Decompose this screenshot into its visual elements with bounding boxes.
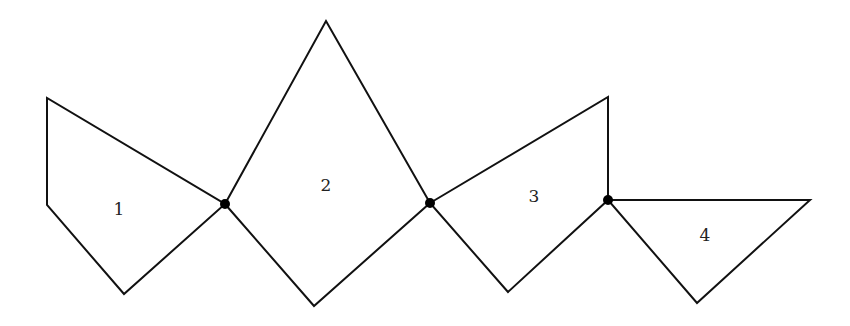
joint-dot-3 (603, 195, 613, 205)
polygon-chain-diagram: 1 2 3 4 (0, 0, 850, 326)
polygon-3 (430, 97, 608, 292)
polygon-1 (47, 98, 225, 294)
polygon-4 (608, 200, 810, 303)
polygon-label-1: 1 (114, 199, 125, 219)
polygon-label-3: 3 (529, 186, 540, 206)
polygon-2 (225, 21, 430, 306)
joint-dot-2 (425, 198, 435, 208)
polygon-label-4: 4 (700, 225, 711, 245)
polygon-label-2: 2 (321, 175, 332, 195)
joint-dot-1 (220, 199, 230, 209)
